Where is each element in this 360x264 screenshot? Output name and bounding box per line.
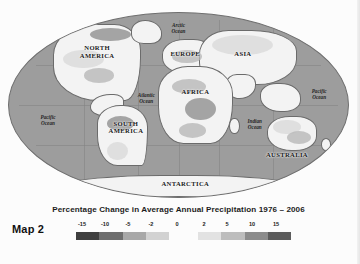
colorbar-swatch-neg-1 — [76, 232, 99, 240]
world-map-figure: NORTH AMERICA SOUTH AMERICA EUROPE ASIA … — [0, 0, 357, 208]
label-line-2: Ocean — [23, 120, 74, 126]
colorbar-negative — [76, 232, 169, 240]
colorbar-tick-2: 2 — [202, 221, 205, 227]
figure-caption: Percentage Change in Average Annual Prec… — [0, 205, 357, 214]
map-label-africa: AFRICA — [162, 88, 230, 95]
precipitation-colorbar-legend: -15 -10 -5 -2 0 2 5 10 15 — [76, 221, 291, 243]
label-line-2: Ocean — [151, 28, 205, 34]
label-line-2: AMERICA — [67, 52, 128, 59]
colorbar-tick-5: 5 — [225, 221, 228, 227]
label-line-1: SOUTH — [97, 120, 155, 127]
map-label-south-america: SOUTH AMERICA — [97, 120, 155, 135]
precip-patch-southern-andes — [107, 142, 127, 160]
figure-page: NORTH AMERICA SOUTH AMERICA EUROPE ASIA … — [0, 0, 360, 264]
map-label-pacific-ocean-west: Pacific Ocean — [23, 114, 74, 126]
map-label-arctic-ocean: Arctic Ocean — [151, 22, 205, 34]
map-label-asia: ASIA — [219, 50, 266, 57]
colorbar-swatch-pos-3 — [245, 232, 268, 240]
colorbar-swatch-neg-4 — [146, 232, 169, 240]
colorbar-tick-0: 0 — [175, 221, 178, 227]
map-number-label: Map 2 — [12, 223, 44, 235]
label-line-1: NORTH — [67, 44, 128, 51]
colorbar-positive — [198, 232, 291, 240]
precip-patch-arctic-canada — [90, 28, 131, 41]
precip-patch-central-africa — [185, 98, 216, 120]
label-line-2: Ocean — [294, 94, 345, 100]
colorbar-tick-10: 10 — [249, 221, 255, 227]
colorbar-swatch-neg-3 — [123, 232, 146, 240]
colorbar-tick--15: -15 — [78, 221, 86, 227]
map-ellipse-mollweide: NORTH AMERICA SOUTH AMERICA EUROPE ASIA … — [8, 12, 349, 198]
map-label-antarctica: ANTARCTICA — [138, 180, 233, 187]
label-line-2: Ocean — [229, 124, 280, 130]
colorbar-tick-15: 15 — [273, 221, 279, 227]
label-line-2: Ocean — [121, 98, 172, 104]
colorbar-tick--10: -10 — [101, 221, 109, 227]
map-label-indian-ocean: Indian Ocean — [229, 118, 280, 130]
colorbar-tick--2: -2 — [149, 221, 154, 227]
colorbar-tick--5: -5 — [126, 221, 131, 227]
colorbar-swatch-neg-2 — [99, 232, 122, 240]
map-label-pacific-ocean-east: Pacific Ocean — [294, 88, 345, 100]
colorbar-swatch-pos-4 — [268, 232, 291, 240]
landmass-new-zealand — [321, 138, 331, 151]
map-label-atlantic-ocean: Atlantic Ocean — [121, 92, 172, 104]
precip-patch-interior-australia — [287, 131, 311, 144]
map-label-australia: AUSTRALIA — [246, 151, 327, 158]
precip-patch-sw-usa — [84, 68, 115, 83]
label-line-2: AMERICA — [97, 127, 155, 134]
colorbar-swatch-pos-1 — [198, 232, 221, 240]
map-label-europe: EUROPE — [158, 50, 212, 57]
map-label-north-america: NORTH AMERICA — [67, 44, 128, 59]
colorbar-swatch-pos-2 — [221, 232, 244, 240]
precip-patch-southern-africa — [179, 123, 206, 138]
colorbar-tick-labels: -15 -10 -5 -2 0 2 5 10 15 — [76, 221, 291, 230]
